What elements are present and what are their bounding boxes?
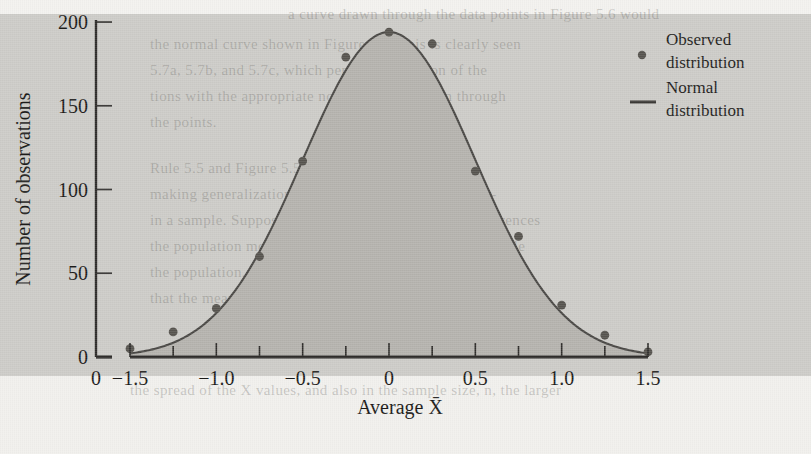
legend-observed-line1: Observed [666,30,732,49]
legend-normal-line1: Normal [666,78,718,97]
data-point [169,327,178,336]
x-axis-tick-label: 0 [384,367,394,389]
x-axis-tick-label: 1.5 [636,367,661,389]
distribution-chart: 050100150200 −1.5−1.0−0.500.51.01.5 0 Av… [0,0,811,454]
y-axis-tick-label: 50 [68,262,88,284]
data-point [255,252,264,261]
y-axis-tick-label: 0 [78,346,88,368]
data-point [557,301,566,310]
chart-svg: 050100150200 −1.5−1.0−0.500.51.01.5 0 Av… [0,0,811,454]
y-axis-tick-label: 150 [58,95,88,117]
x-axis-tick-labels: −1.5−1.0−0.500.51.01.5 [112,367,661,389]
x-axis-tick-label: 0.5 [463,367,488,389]
data-point [471,167,480,176]
data-point [212,304,221,313]
area-under-curve [130,32,648,357]
data-point [428,39,437,48]
y-axis-label: Number of observations [12,92,34,286]
x-axis-tick-label: −0.5 [285,367,321,389]
x-axis-break-zero-label: 0 [91,367,101,389]
x-axis-tick-label: −1.0 [198,367,234,389]
chart-legend: Observed distribution Normal distributio… [630,30,745,120]
y-axis-tick-labels: 050100150200 [58,11,88,368]
x-axis-label: Average X̄ [357,396,443,419]
data-point [298,157,307,166]
y-axis-tick-label: 100 [58,179,88,201]
x-axis-tick-label: 1.0 [549,367,574,389]
y-axis-ticks [96,22,112,357]
data-point [341,53,350,62]
x-axis-tick-label: −1.5 [112,367,148,389]
legend-observed-line2: distribution [666,53,745,72]
legend-dot-marker-icon [638,51,646,59]
data-point [385,28,394,37]
data-point [514,232,523,241]
y-axis-tick-label: 200 [58,11,88,33]
data-point [600,331,609,340]
legend-normal-line2: distribution [666,101,745,120]
